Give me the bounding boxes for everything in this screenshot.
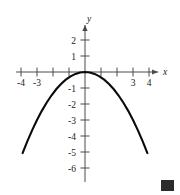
- x-axis-arrowhead: [152, 69, 158, 74]
- y-ticklabel--3: -3: [68, 116, 76, 126]
- x-ticklabel--4: -4: [17, 78, 25, 88]
- x-axis-label: x: [162, 67, 168, 77]
- y-ticklabel--6: -6: [68, 164, 76, 174]
- y-ticklabel-1: 1: [71, 52, 76, 62]
- y-ticklabel-2: 2: [71, 36, 76, 46]
- x-ticklabel-3: 3: [131, 78, 136, 88]
- y-ticklabel--2: -2: [68, 100, 76, 110]
- x-ticklabel--3: -3: [33, 78, 41, 88]
- y-axis-arrowhead: [82, 25, 87, 31]
- corner-square-marker: [161, 180, 174, 191]
- y-axis-label: y: [86, 14, 92, 24]
- graph-canvas: -4 -3 3 4 2 1 -1 -2 -3 -4 -5 -6 x y: [0, 0, 180, 195]
- y-ticklabel--5: -5: [68, 148, 76, 158]
- parabola-figure: -4 -3 3 4 2 1 -1 -2 -3 -4 -5 -6 x y: [0, 0, 180, 195]
- y-ticklabel--1: -1: [68, 84, 76, 94]
- x-ticklabel-4: 4: [147, 78, 152, 88]
- y-ticklabel--4: -4: [68, 132, 76, 142]
